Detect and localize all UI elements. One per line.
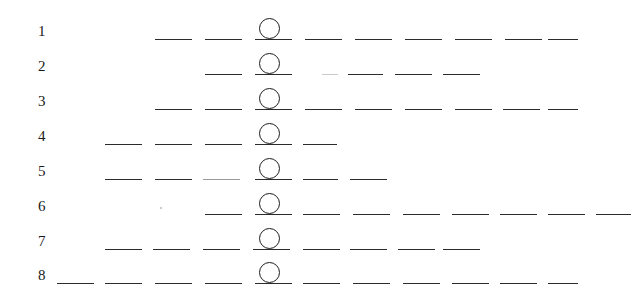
dash-segment	[395, 74, 432, 75]
dash-segment	[303, 144, 337, 145]
dash-segment	[405, 39, 442, 40]
dash-segment	[305, 39, 342, 40]
dash-segment	[353, 214, 390, 215]
dash-segment	[255, 109, 292, 110]
dash-segment	[455, 109, 492, 110]
dash-segment	[255, 74, 292, 75]
dash-segment	[255, 179, 292, 180]
dash-segment	[452, 283, 489, 284]
dash-segment	[353, 283, 390, 284]
dash-segment	[205, 74, 242, 75]
circle-marker-icon	[259, 53, 280, 74]
dash-segment	[548, 214, 585, 215]
dash-segment	[105, 179, 142, 180]
dash-segment	[105, 144, 142, 145]
dash-segment	[500, 283, 537, 284]
dash-segment	[155, 283, 192, 284]
dash-segment	[153, 249, 190, 250]
dash-segment	[452, 214, 489, 215]
dash-segment	[548, 109, 578, 110]
dash-segment	[355, 109, 392, 110]
dash-segment	[350, 179, 387, 180]
row-number-label: 6	[38, 199, 46, 214]
row-number-label: 2	[38, 59, 46, 74]
dash-segment	[155, 144, 192, 145]
row-number-label: 8	[38, 268, 46, 283]
dash-segment	[403, 283, 440, 284]
dash-segment	[443, 249, 480, 250]
circle-marker-icon	[259, 228, 280, 249]
dash-segment	[255, 144, 292, 145]
circle-marker-icon	[259, 18, 280, 39]
dash-segment	[596, 214, 631, 215]
paper-speck	[160, 207, 162, 209]
dash-segment	[255, 214, 292, 215]
dash-segment	[443, 74, 480, 75]
circle-marker-icon	[259, 158, 280, 179]
dash-segment	[155, 39, 192, 40]
dash-segment	[322, 74, 338, 75]
dash-segment	[548, 39, 578, 40]
dash-segment	[503, 109, 540, 110]
dash-segment	[253, 249, 290, 250]
dash-segment	[57, 283, 94, 284]
dash-segment	[303, 214, 340, 215]
dash-segment	[355, 39, 392, 40]
circle-marker-icon	[259, 262, 280, 283]
dash-segment	[205, 283, 242, 284]
dash-segment	[105, 283, 142, 284]
row-number-label: 3	[38, 94, 46, 109]
dash-segment	[203, 249, 240, 250]
dash-segment	[303, 179, 338, 180]
dash-segment	[500, 214, 537, 215]
dash-segment	[155, 109, 192, 110]
row-number-label: 5	[38, 164, 46, 179]
dash-segment	[303, 249, 340, 250]
dash-segment	[403, 214, 440, 215]
row-number-label: 1	[38, 24, 46, 39]
row-number-label: 7	[38, 234, 46, 249]
circle-marker-icon	[259, 193, 280, 214]
dash-segment	[205, 109, 242, 110]
dashed-rows-figure: 12345678	[0, 0, 640, 305]
dash-segment	[205, 144, 242, 145]
dash-segment	[348, 74, 383, 75]
dash-segment	[205, 39, 242, 40]
dash-segment	[350, 249, 387, 250]
circle-marker-icon	[259, 123, 280, 144]
dash-segment	[255, 283, 292, 284]
dash-segment	[205, 214, 242, 215]
dash-segment	[548, 283, 578, 284]
dash-segment	[305, 109, 342, 110]
dash-segment	[505, 39, 542, 40]
circle-marker-icon	[259, 88, 280, 109]
row-number-label: 4	[38, 129, 46, 144]
dash-segment	[155, 179, 192, 180]
dash-segment	[455, 39, 492, 40]
dash-segment	[405, 109, 442, 110]
dash-segment	[303, 283, 340, 284]
dash-segment	[255, 39, 292, 40]
dash-segment	[203, 179, 240, 180]
dash-segment	[398, 249, 435, 250]
dash-segment	[105, 249, 142, 250]
